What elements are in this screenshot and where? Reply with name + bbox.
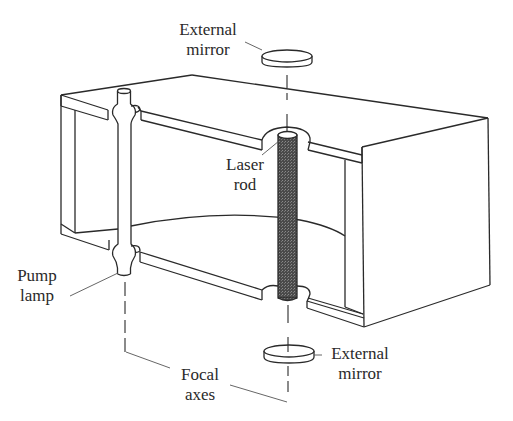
label-line: External bbox=[168, 20, 248, 40]
box-inner-right-wall bbox=[308, 160, 363, 314]
diagram-drawing bbox=[0, 0, 513, 421]
external-mirror-bottom bbox=[264, 345, 314, 363]
label-focal-axes: Focal axes bbox=[172, 365, 228, 405]
label-line: External bbox=[320, 344, 400, 364]
label-line: mirror bbox=[320, 364, 400, 384]
leader-laser-rod bbox=[262, 141, 279, 155]
label-line: lamp bbox=[12, 286, 62, 306]
label-line: axes bbox=[172, 385, 228, 405]
laser-rod bbox=[278, 132, 297, 301]
label-external-mirror-top: External mirror bbox=[168, 20, 248, 60]
label-laser-rod: Laser rod bbox=[220, 155, 270, 195]
box-left-wall bbox=[61, 95, 118, 250]
leader-pump-lamp bbox=[70, 273, 118, 296]
leader-focal-axes-right bbox=[230, 385, 287, 402]
box-right-face bbox=[362, 118, 490, 327]
laser-cavity-diagram: External mirror Laser rod Pump lamp Exte… bbox=[0, 0, 513, 421]
label-line: Focal bbox=[172, 365, 228, 385]
external-mirror-top bbox=[262, 50, 312, 67]
label-line: rod bbox=[220, 175, 270, 195]
pump-lamp bbox=[113, 89, 140, 276]
reflector-curve bbox=[131, 215, 345, 236]
label-line: Pump bbox=[12, 266, 62, 286]
label-line: mirror bbox=[168, 40, 248, 60]
label-line: Laser bbox=[220, 155, 270, 175]
box-bottom-slab bbox=[109, 240, 364, 327]
leader-focal-axes-left bbox=[126, 352, 170, 368]
label-external-mirror-bottom: External mirror bbox=[320, 344, 400, 384]
label-pump-lamp: Pump lamp bbox=[12, 266, 62, 306]
